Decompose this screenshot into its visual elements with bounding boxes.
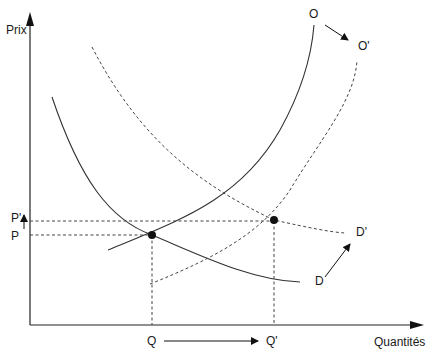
supply-shifted-label: O' <box>358 39 370 53</box>
quantity-label-new: Q' <box>266 334 278 348</box>
demand-curve <box>52 97 300 282</box>
demand-shift-arrow-icon <box>325 244 350 277</box>
y-axis-label: Prix <box>6 23 27 37</box>
x-axis-label: Quantités <box>374 335 425 349</box>
quantity-label-initial: Q <box>147 334 156 348</box>
x-axis-arrow-icon <box>410 321 424 329</box>
demand-shifted-curve <box>92 47 345 233</box>
x-axis <box>30 321 424 329</box>
demand-shifted-label: D' <box>356 225 367 239</box>
equilibrium-point-new <box>270 216 278 224</box>
price-label-initial: P <box>11 229 19 243</box>
demand-label: D <box>315 274 324 288</box>
y-axis-arrow-icon <box>26 12 34 26</box>
price-label-new: P' <box>11 211 21 225</box>
y-axis <box>26 12 34 325</box>
supply-label: O <box>309 7 318 21</box>
supply-demand-diagram: Prix Quantités O O' D D' P' P Q Q' <box>0 0 432 352</box>
supply-shift-arrow-icon <box>325 25 348 40</box>
equilibrium-point-initial <box>148 231 156 239</box>
supply-shifted-curve <box>150 60 357 284</box>
supply-curve <box>108 25 314 250</box>
